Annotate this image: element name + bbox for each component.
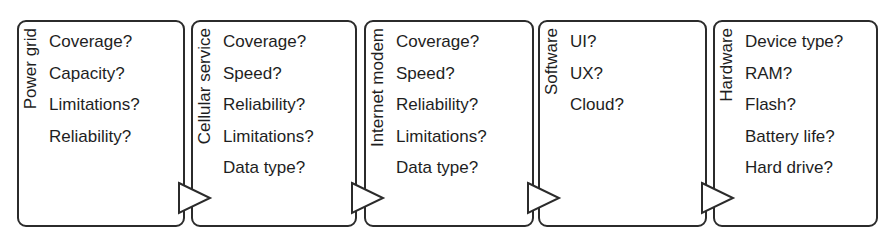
question-item: Hard drive? xyxy=(745,152,843,184)
question-list: Coverage? Speed? Reliability? Limitation… xyxy=(223,26,314,184)
question-list: Device type? RAM? Flash? Battery life? H… xyxy=(745,26,843,184)
question-item: Battery life? xyxy=(745,121,843,153)
stage-label: Hardware xyxy=(717,28,737,102)
question-item: Reliability? xyxy=(396,89,487,121)
question-item: Speed? xyxy=(396,58,487,90)
question-item: Device type? xyxy=(745,26,843,58)
question-item: Limitations? xyxy=(223,121,314,153)
question-list: Coverage? Capacity? Limitations? Reliabi… xyxy=(49,26,140,152)
question-item: UI? xyxy=(570,26,624,58)
stage-cellular-service: Cellular service Coverage? Speed? Reliab… xyxy=(191,20,357,227)
question-item: Limitations? xyxy=(49,89,140,121)
arrow-right-icon xyxy=(177,180,213,216)
question-item: RAM? xyxy=(745,58,843,90)
question-item: Speed? xyxy=(223,58,314,90)
stage-label: Software xyxy=(542,28,562,95)
question-item: Coverage? xyxy=(49,26,140,58)
arrow-right-icon xyxy=(526,180,562,216)
question-item: UX? xyxy=(570,58,624,90)
question-item: Data type? xyxy=(223,152,314,184)
question-item: Reliability? xyxy=(223,89,314,121)
question-list: UI? UX? Cloud? xyxy=(570,26,624,121)
arrow-right-icon xyxy=(700,180,736,216)
question-item: Data type? xyxy=(396,152,487,184)
stage-power-grid: Power grid Coverage? Capacity? Limitatio… xyxy=(17,20,185,227)
arrow-right-icon xyxy=(350,180,386,216)
question-item: Limitations? xyxy=(396,121,487,153)
stage-software: Software UI? UX? Cloud? xyxy=(538,20,707,227)
question-list: Coverage? Speed? Reliability? Limitation… xyxy=(396,26,487,184)
question-item: Coverage? xyxy=(223,26,314,58)
stage-label: Internet modem xyxy=(368,28,388,147)
stage-hardware: Hardware Device type? RAM? Flash? Batter… xyxy=(713,20,878,227)
question-item: Coverage? xyxy=(396,26,487,58)
stage-internet-modem: Internet modem Coverage? Speed? Reliabil… xyxy=(364,20,534,227)
stage-label: Power grid xyxy=(21,28,41,109)
question-item: Flash? xyxy=(745,89,843,121)
question-item: Reliability? xyxy=(49,121,140,153)
stage-label: Cellular service xyxy=(195,28,215,144)
question-item: Cloud? xyxy=(570,89,624,121)
question-item: Capacity? xyxy=(49,58,140,90)
